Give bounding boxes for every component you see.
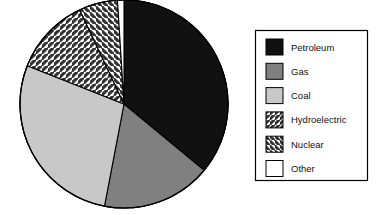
- legend-label: Nuclear: [291, 139, 324, 150]
- pie-slices: [20, 0, 228, 208]
- legend-label: Petroleum: [291, 42, 334, 53]
- solid-white-swatch: [266, 161, 283, 177]
- legend-label: Gas: [291, 66, 309, 77]
- hatch-backward-swatch: [266, 136, 283, 152]
- solid-darkgray-swatch: [266, 63, 283, 79]
- pie-chart-figure: PetroleumGasCoalHydroelectricNuclearOthe…: [0, 0, 376, 215]
- hatch-forward-swatch: [266, 112, 283, 128]
- solid-lightgray-swatch: [266, 88, 283, 104]
- pie-group: [20, 0, 228, 208]
- solid-black-swatch: [266, 39, 283, 55]
- chart-canvas: PetroleumGasCoalHydroelectricNuclearOthe…: [0, 0, 376, 215]
- legend-label: Coal: [291, 90, 311, 101]
- legend-label: Other: [291, 163, 315, 174]
- legend-label: Hydroelectric: [291, 114, 347, 125]
- legend: PetroleumGasCoalHydroelectricNuclearOthe…: [256, 31, 368, 181]
